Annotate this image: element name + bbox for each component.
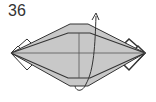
origami-diagram (0, 0, 156, 102)
paper-body (11, 24, 145, 86)
